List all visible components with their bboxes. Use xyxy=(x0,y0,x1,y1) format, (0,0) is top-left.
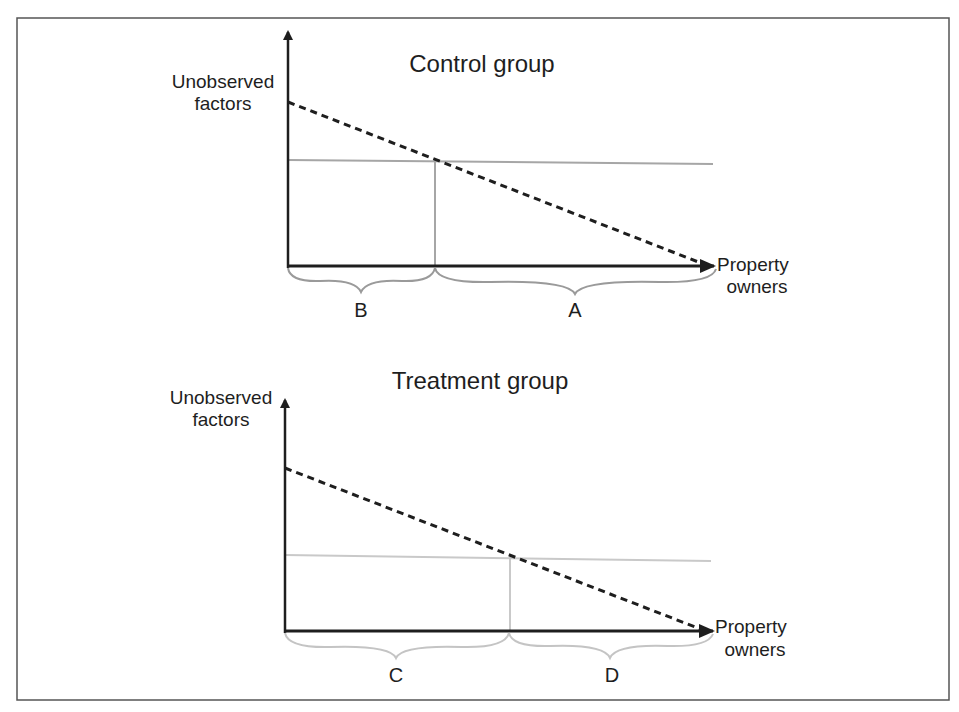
treatment-region-label-d: D xyxy=(605,664,619,686)
control-y-axis-label-line2: factors xyxy=(194,93,251,114)
control-region-label-b: B xyxy=(354,299,367,321)
control-x-axis-label-line1: Property xyxy=(717,254,789,275)
treatment-region-label-c: C xyxy=(389,664,403,686)
control-x-axis-label-line2: owners xyxy=(726,276,787,297)
control-group-title: Control group xyxy=(409,50,554,77)
control-y-axis-label-line1: Unobserved xyxy=(172,71,274,92)
treatment-y-axis-label-line1: Unobserved xyxy=(170,387,272,408)
figure-frame xyxy=(17,18,949,700)
treatment-x-axis-label-line2: owners xyxy=(724,639,785,660)
diagram-figure: Control group Unobserved factors Propert… xyxy=(0,0,959,712)
treatment-group-title: Treatment group xyxy=(392,367,569,394)
treatment-y-axis-label-line2: factors xyxy=(192,409,249,430)
control-region-label-a: A xyxy=(568,299,582,321)
treatment-x-axis-label-line1: Property xyxy=(715,616,787,637)
